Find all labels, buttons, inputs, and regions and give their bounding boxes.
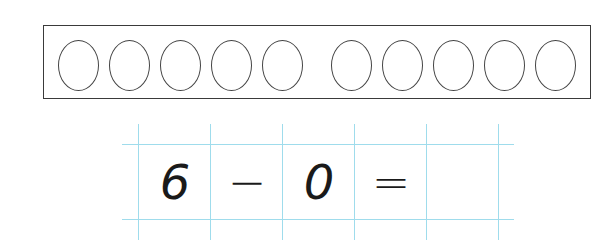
equation-answer-box[interactable]: [427, 145, 499, 219]
counter-circle-3: [160, 40, 201, 91]
equation-operand-2: 0: [283, 145, 355, 219]
equation-equals-sign: =: [355, 145, 427, 219]
counter-circle-7: [382, 40, 423, 91]
counter-circle-8: [433, 40, 474, 91]
counter-circle-5: [262, 40, 303, 91]
equation-operand-1: 6: [139, 145, 211, 219]
counter-circle-2: [109, 40, 150, 91]
equation-minus-sign: −: [211, 145, 283, 219]
counter-circle-4: [211, 40, 252, 91]
counter-circle-1: [58, 40, 99, 91]
counter-circle-9: [484, 40, 525, 91]
counter-circle-10: [535, 40, 576, 91]
grid-line-bottom: [122, 219, 514, 220]
counter-circle-6: [331, 40, 372, 91]
